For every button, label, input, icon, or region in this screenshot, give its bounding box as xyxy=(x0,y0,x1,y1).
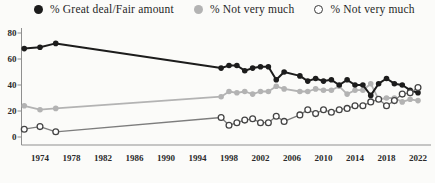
data-point-great-deal-fair-amount xyxy=(329,77,335,83)
data-point-not-very-much xyxy=(297,89,303,95)
data-point-none-at-all xyxy=(368,99,374,105)
data-point-not-very-much xyxy=(321,87,327,93)
data-point-none-at-all xyxy=(360,103,366,109)
data-point-great-deal-fair-amount xyxy=(321,78,327,84)
data-point-great-deal-fair-amount xyxy=(352,82,358,88)
data-point-not-very-much xyxy=(305,89,311,95)
data-point-not-very-much xyxy=(273,84,279,90)
data-point-none-at-all xyxy=(273,113,279,119)
x-tick-label: 2002 xyxy=(252,153,271,163)
data-point-great-deal-fair-amount xyxy=(53,41,59,47)
x-tick-label: 2018 xyxy=(378,153,397,163)
data-point-none-at-all xyxy=(234,120,240,126)
data-point-none-at-all xyxy=(328,109,334,115)
data-point-none-at-all xyxy=(384,103,390,109)
x-tick-label: 1994 xyxy=(189,153,208,163)
data-point-none-at-all xyxy=(281,119,287,125)
data-point-great-deal-fair-amount xyxy=(258,64,264,70)
data-point-not-very-much xyxy=(313,86,319,92)
x-tick-label: 1974 xyxy=(31,153,50,163)
data-point-great-deal-fair-amount xyxy=(250,65,256,71)
data-point-great-deal-fair-amount xyxy=(399,82,405,88)
y-tick-label: 0 xyxy=(12,132,17,142)
line-chart-canvas: 020406080 197419781982198619901994199820… xyxy=(0,0,435,183)
data-point-great-deal-fair-amount xyxy=(242,68,248,74)
data-point-none-at-all xyxy=(226,122,232,128)
trust-in-mass-media-chart: % Great deal/Fair amount % Not very much… xyxy=(0,0,435,183)
data-point-not-very-much xyxy=(21,103,27,109)
x-tick-label: 1978 xyxy=(63,153,82,163)
data-point-not-very-much xyxy=(258,89,264,95)
data-point-not-very-much xyxy=(329,87,335,93)
data-point-none-at-all xyxy=(297,112,303,118)
data-point-none-at-all xyxy=(336,107,342,113)
data-point-great-deal-fair-amount xyxy=(305,78,311,84)
data-point-not-very-much xyxy=(344,91,350,97)
data-point-none-at-all xyxy=(305,107,311,113)
y-tick-label: 40 xyxy=(8,80,18,90)
x-tick-label: 2014 xyxy=(346,153,365,163)
x-tick-label: 2010 xyxy=(315,153,334,163)
data-point-none-at-all xyxy=(258,120,264,126)
data-point-none-at-all xyxy=(321,107,327,113)
data-point-none-at-all xyxy=(376,96,382,102)
x-tick-label: 1986 xyxy=(126,153,145,163)
data-point-none-at-all xyxy=(415,85,421,91)
data-point-great-deal-fair-amount xyxy=(384,76,390,82)
data-point-not-very-much xyxy=(352,87,358,93)
data-point-not-very-much xyxy=(281,86,287,92)
data-point-great-deal-fair-amount xyxy=(376,81,382,87)
data-point-none-at-all xyxy=(313,111,319,117)
data-point-none-at-all xyxy=(218,115,224,121)
data-point-none-at-all xyxy=(250,116,256,122)
data-point-great-deal-fair-amount xyxy=(37,45,43,51)
data-point-great-deal-fair-amount xyxy=(297,73,303,79)
x-tick-label: 2022 xyxy=(409,153,428,163)
data-point-great-deal-fair-amount xyxy=(273,77,279,83)
data-point-great-deal-fair-amount xyxy=(360,82,366,88)
data-point-great-deal-fair-amount xyxy=(21,46,27,52)
data-point-great-deal-fair-amount xyxy=(392,81,398,87)
y-axis-ticks: 020406080 xyxy=(8,28,22,142)
data-point-great-deal-fair-amount xyxy=(344,77,350,83)
data-point-not-very-much xyxy=(384,95,390,101)
x-tick-label: 2006 xyxy=(283,153,302,163)
data-point-none-at-all xyxy=(344,106,350,112)
x-tick-label: 1990 xyxy=(157,153,176,163)
data-point-great-deal-fair-amount xyxy=(234,63,240,69)
data-point-not-very-much xyxy=(415,98,421,104)
data-point-not-very-much xyxy=(53,106,59,112)
y-tick-label: 80 xyxy=(8,28,18,38)
series-container xyxy=(21,41,421,135)
data-point-none-at-all xyxy=(391,98,397,104)
data-point-none-at-all xyxy=(407,90,413,96)
data-point-not-very-much xyxy=(407,97,413,103)
data-point-not-very-much xyxy=(226,89,232,95)
x-tick-label: 1998 xyxy=(220,153,239,163)
data-point-none-at-all xyxy=(37,124,43,130)
data-point-great-deal-fair-amount xyxy=(218,65,224,71)
data-point-not-very-much xyxy=(399,99,405,105)
data-point-great-deal-fair-amount xyxy=(313,76,319,82)
data-point-none-at-all xyxy=(399,91,405,97)
data-point-great-deal-fair-amount xyxy=(226,63,232,69)
data-point-not-very-much xyxy=(234,90,240,96)
data-point-not-very-much xyxy=(368,81,374,87)
data-point-none-at-all xyxy=(242,117,248,123)
x-axis-ticks: 1974197819821986199019941998200220062010… xyxy=(31,153,428,163)
data-point-none-at-all xyxy=(21,126,27,132)
data-point-not-very-much xyxy=(37,107,43,113)
y-tick-label: 60 xyxy=(8,54,18,64)
data-point-none-at-all xyxy=(352,103,358,109)
data-point-not-very-much xyxy=(218,94,224,100)
x-tick-label: 1982 xyxy=(94,153,113,163)
y-tick-label: 20 xyxy=(8,106,18,116)
data-point-not-very-much xyxy=(266,89,272,95)
data-point-none-at-all xyxy=(53,129,59,135)
data-point-great-deal-fair-amount xyxy=(368,93,374,99)
data-point-none-at-all xyxy=(265,120,271,126)
data-point-great-deal-fair-amount xyxy=(281,69,287,75)
data-point-great-deal-fair-amount xyxy=(266,64,272,70)
data-point-not-very-much xyxy=(242,89,248,95)
data-point-not-very-much xyxy=(250,91,256,97)
